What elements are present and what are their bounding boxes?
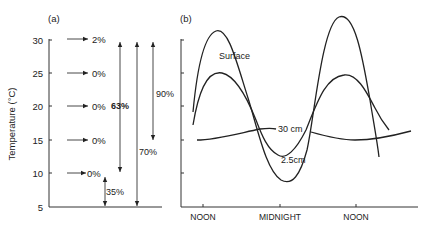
vertical-arrow-labels: 35% 63% 70% 90% <box>106 89 174 197</box>
tick-5: 5 <box>38 202 43 213</box>
x-tick-noon-1: NOON <box>190 212 216 222</box>
x-tick-midnight: MIDNIGHT <box>259 212 301 222</box>
label-63pct: 63% <box>111 101 129 111</box>
y-axis-label: Temperature (°C) <box>6 88 17 161</box>
label-35pct: 35% <box>106 187 124 197</box>
label-2-5cm: 2.5cm <box>281 155 306 165</box>
label-25-pct: 0% <box>92 68 106 79</box>
tick-10: 10 <box>32 168 43 179</box>
panel-b: (b) NOON MIDNIGHT NOON Surface 30 cm <box>180 13 418 222</box>
tick-25: 25 <box>32 68 43 79</box>
panel-a-label: (a) <box>48 13 60 24</box>
horizontal-arrow-labels: 2% 0% 0% 0% 0% <box>87 34 106 179</box>
y-tick-labels-a: 30 25 20 15 10 5 <box>32 35 43 213</box>
label-10-pct: 0% <box>87 168 101 179</box>
label-30cm: 30 cm <box>278 124 303 134</box>
vertical-arrows <box>105 42 153 206</box>
panel-a: (a) Temperature (°C) 30 25 20 15 10 5 <box>6 13 174 213</box>
tick-30: 30 <box>32 35 43 46</box>
x-tick-labels-b: NOON MIDNIGHT NOON <box>190 212 369 222</box>
label-surface: Surface <box>219 51 250 61</box>
panel-b-label: (b) <box>180 13 192 24</box>
label-20-pct: 0% <box>92 101 106 112</box>
label-15-pct: 0% <box>92 135 106 146</box>
curve-2-5cm <box>193 73 389 157</box>
figure: (a) Temperature (°C) 30 25 20 15 10 5 <box>0 0 428 232</box>
label-30-pct: 2% <box>92 34 106 45</box>
tick-15: 15 <box>32 135 43 146</box>
tick-20: 20 <box>32 101 43 112</box>
label-70pct: 70% <box>139 147 157 157</box>
horizontal-arrows <box>67 39 88 173</box>
x-tick-noon-2: NOON <box>343 212 369 222</box>
label-90pct: 90% <box>156 89 174 99</box>
